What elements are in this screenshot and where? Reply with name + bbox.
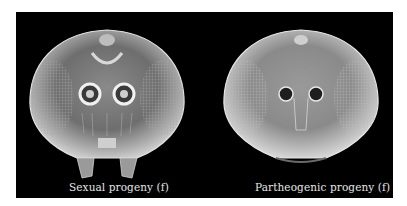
partheogenic-progeny-caption: Partheogenic progeny (f) [255, 181, 390, 193]
sexual-progeny-caption: Sexual progeny (f) [69, 181, 169, 193]
sexual-progeny-head-image [22, 18, 192, 183]
figure-panel: Sexual progeny (f) Partheogenic progeny … [16, 12, 393, 198]
partheogenic-progeny-head-image [216, 18, 386, 168]
